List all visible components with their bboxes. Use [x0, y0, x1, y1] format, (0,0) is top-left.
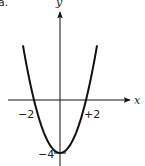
y-axis-label: y: [55, 0, 63, 9]
root-left-label: −2: [18, 108, 34, 121]
root-right-label: +2: [84, 108, 100, 121]
corner-mark: a.: [0, 0, 8, 9]
x-axis-label: x: [134, 94, 141, 107]
vertex-label: −4: [38, 148, 54, 161]
parabola-chart: a. x y −2 +2 −4: [0, 0, 145, 166]
